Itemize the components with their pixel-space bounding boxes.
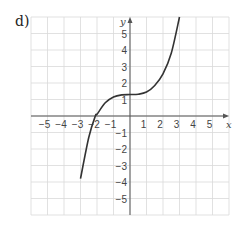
svg-text:1: 1 (121, 95, 127, 106)
svg-text:1: 1 (141, 119, 147, 130)
svg-text:3: 3 (121, 62, 127, 73)
svg-text:2: 2 (121, 78, 127, 89)
svg-text:−3: −3 (72, 119, 84, 130)
svg-text:−5: −5 (116, 194, 128, 205)
svg-text:5: 5 (121, 29, 127, 40)
svg-text:−4: −4 (116, 177, 128, 188)
svg-text:5: 5 (207, 119, 213, 130)
svg-text:3: 3 (174, 119, 180, 130)
svg-text:−2: −2 (116, 144, 128, 155)
svg-text:y: y (119, 16, 126, 27)
svg-text:4: 4 (190, 119, 196, 130)
svg-text:−1: −1 (116, 128, 128, 139)
svg-text:4: 4 (121, 45, 127, 56)
svg-text:−5: −5 (39, 119, 51, 130)
axes (31, 17, 229, 215)
svg-text:−3: −3 (116, 161, 128, 172)
svg-text:−4: −4 (55, 119, 67, 130)
svg-text:x: x (226, 119, 232, 130)
tick-labels: −5−4−3−2−112345−5−4−3−2−112345xy (39, 16, 232, 205)
cubic-graph: −5−4−3−2−112345−5−4−3−2−112345xy (0, 0, 241, 225)
svg-text:2: 2 (157, 119, 163, 130)
